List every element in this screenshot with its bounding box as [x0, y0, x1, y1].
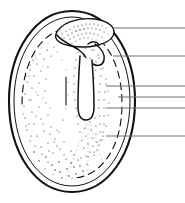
- radicle-channel: [78, 56, 94, 120]
- seed-diagram-figure: [0, 0, 185, 203]
- seed-diagram-canvas: [0, 0, 185, 203]
